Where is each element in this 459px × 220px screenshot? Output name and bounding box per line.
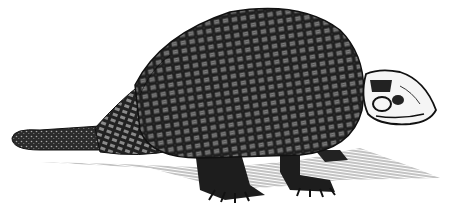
carapace bbox=[135, 9, 364, 158]
head bbox=[363, 70, 436, 124]
glyptodon-illustration bbox=[0, 0, 459, 220]
